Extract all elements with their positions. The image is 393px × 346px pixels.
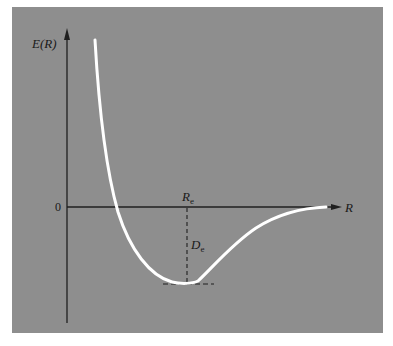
potential-curve bbox=[95, 40, 326, 283]
equilibrium-distance-label: Re bbox=[182, 190, 194, 206]
x-axis-label: R bbox=[345, 201, 353, 214]
y-axis bbox=[64, 28, 70, 323]
y-axis-arrow-icon bbox=[64, 28, 70, 40]
potential-energy-plot bbox=[0, 0, 393, 346]
origin-label: 0 bbox=[55, 201, 61, 213]
y-axis-label: E(R) bbox=[32, 37, 57, 50]
x-axis-arrow-icon bbox=[331, 204, 342, 210]
dissociation-energy-label: De bbox=[191, 238, 204, 254]
